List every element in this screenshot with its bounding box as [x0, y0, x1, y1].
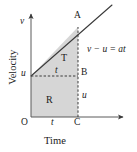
point-label-b: B: [81, 68, 87, 78]
x-axis-title: Time: [44, 136, 66, 147]
x-axis-label-t: t: [51, 118, 54, 128]
rectangle-region-R: [31, 76, 78, 117]
point-label-a: A: [74, 11, 81, 21]
point-label-c: C: [74, 118, 80, 128]
velocity-time-figure: Velocity Time v u O t C A B u t T R v − …: [0, 0, 137, 152]
y-axis-title: Velocity: [8, 38, 19, 96]
equation-annotation: v − u = at: [87, 45, 126, 55]
region-label-rectangle: R: [46, 95, 53, 105]
y-axis-label-u: u: [21, 69, 26, 79]
segment-label-u: u: [82, 91, 87, 101]
segment-label-t: t: [55, 66, 58, 76]
region-label-triangle: T: [61, 53, 67, 63]
origin-label-o: O: [21, 118, 28, 128]
y-axis-label-v: v: [20, 17, 24, 27]
